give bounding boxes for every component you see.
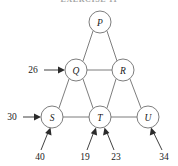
- inflow-arrow-40: 40: [35, 128, 51, 163]
- arrow-head-26: [58, 67, 65, 74]
- arrow-head-40: [45, 128, 51, 136]
- node-r-label: R: [119, 66, 126, 76]
- arrow-shaft-40: [41, 132, 48, 151]
- node-p-label: P: [96, 18, 103, 28]
- node-t-label: T: [97, 113, 103, 123]
- node-s[interactable]: S: [41, 106, 63, 128]
- edge-r-u: [130, 79, 141, 108]
- node-s-label: S: [50, 113, 55, 123]
- edge-q-t: [83, 79, 93, 108]
- network-graph: 26 30 40 19 23: [0, 0, 178, 166]
- inflow-arrow-23: 23: [103, 128, 121, 163]
- edge-r-t: [107, 79, 116, 108]
- figure-container: EXERCISE 11 26 30: [0, 0, 178, 166]
- inflow-value-19: 19: [80, 152, 90, 162]
- arrow-shaft-23: [107, 132, 115, 151]
- node-q[interactable]: Q: [65, 59, 87, 81]
- node-r[interactable]: R: [112, 59, 134, 81]
- inflow-arrow-34: 34: [150, 128, 169, 163]
- inflow-arrow-19: 19: [80, 128, 97, 163]
- inflow-value-40: 40: [35, 152, 45, 162]
- edge-p-q: [83, 31, 93, 61]
- inflow-arrow-30: 30: [7, 112, 41, 122]
- arrow-head-34: [150, 128, 156, 136]
- inflow-value-26: 26: [28, 65, 38, 75]
- node-p[interactable]: P: [89, 11, 111, 33]
- arrow-shaft-19: [87, 132, 94, 151]
- arrow-shaft-34: [153, 132, 162, 151]
- inflow-value-23: 23: [111, 152, 121, 162]
- inflow-value-34: 34: [159, 152, 169, 162]
- node-u-label: U: [145, 113, 153, 123]
- node-q-label: Q: [73, 66, 80, 76]
- inflow-value-30: 30: [7, 112, 17, 122]
- inflow-arrow-26: 26: [28, 65, 65, 75]
- edge-p-r: [107, 31, 117, 61]
- arrow-head-30: [34, 114, 41, 121]
- edge-q-s: [59, 79, 69, 108]
- node-u[interactable]: U: [137, 106, 159, 128]
- arrow-head-19: [91, 128, 97, 136]
- arrow-head-23: [103, 128, 109, 136]
- node-t[interactable]: T: [89, 106, 111, 128]
